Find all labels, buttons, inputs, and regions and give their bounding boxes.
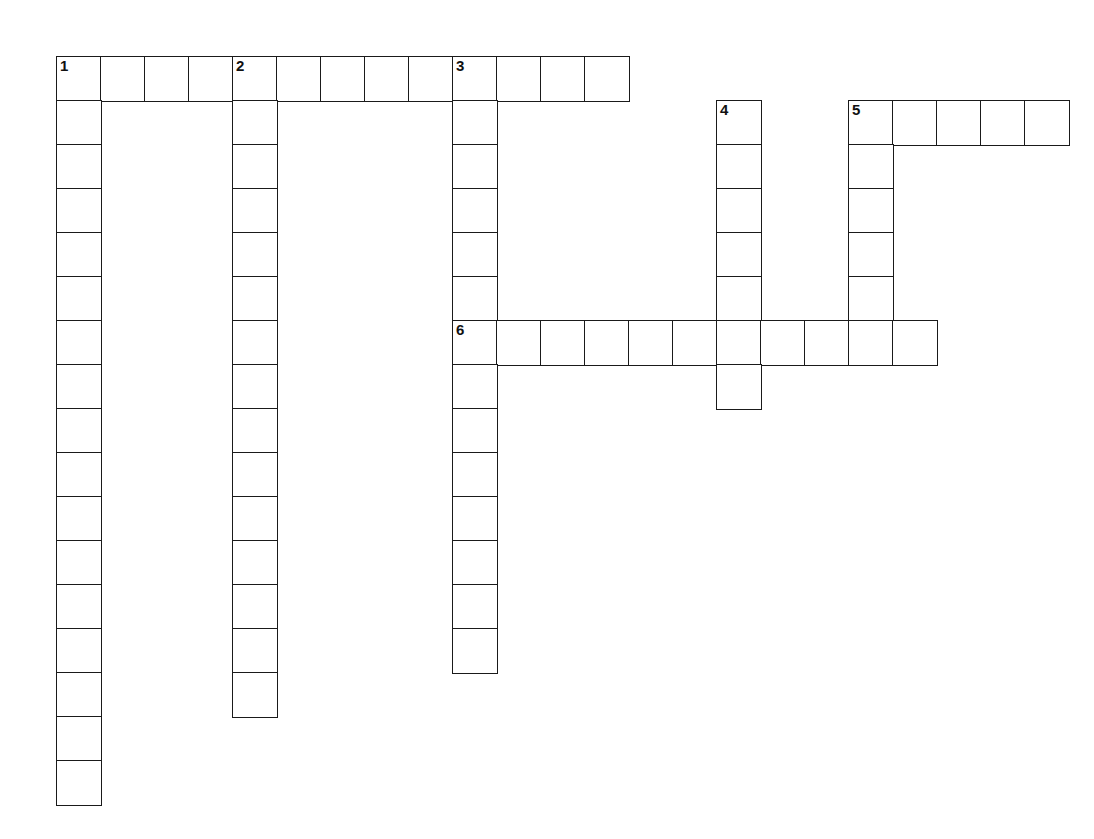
crossword-cell[interactable]: 6 xyxy=(452,320,498,366)
crossword-cell[interactable] xyxy=(56,408,102,454)
crossword-cell[interactable] xyxy=(452,496,498,542)
crossword-cell[interactable] xyxy=(584,56,630,102)
crossword-cell[interactable] xyxy=(56,188,102,234)
crossword-cell[interactable] xyxy=(540,56,586,102)
crossword-cell[interactable] xyxy=(232,276,278,322)
crossword-cell[interactable] xyxy=(188,56,234,102)
crossword-cell[interactable] xyxy=(56,716,102,762)
crossword-cell[interactable] xyxy=(364,56,410,102)
crossword-cell[interactable] xyxy=(452,188,498,234)
crossword-cell[interactable]: 3 xyxy=(452,56,498,102)
crossword-cell[interactable] xyxy=(716,276,762,322)
crossword-cell[interactable]: 4 xyxy=(716,100,762,146)
crossword-cell-number: 4 xyxy=(720,101,728,118)
crossword-cell[interactable] xyxy=(232,144,278,190)
crossword-cell[interactable] xyxy=(56,672,102,718)
crossword-cell[interactable] xyxy=(716,144,762,190)
crossword-cell[interactable] xyxy=(56,320,102,366)
crossword-cell[interactable] xyxy=(760,320,806,366)
crossword-cell[interactable] xyxy=(144,56,190,102)
crossword-cell[interactable] xyxy=(232,364,278,410)
crossword-cell[interactable] xyxy=(892,320,938,366)
crossword-cell[interactable] xyxy=(56,628,102,674)
crossword-cell[interactable] xyxy=(716,232,762,278)
crossword-cell[interactable] xyxy=(628,320,674,366)
crossword-cell[interactable] xyxy=(672,320,718,366)
crossword-cell[interactable] xyxy=(936,100,982,146)
crossword-cell[interactable] xyxy=(232,188,278,234)
crossword-cell[interactable] xyxy=(716,364,762,410)
crossword-cell[interactable] xyxy=(56,100,102,146)
crossword-cell[interactable] xyxy=(540,320,586,366)
crossword-cell[interactable] xyxy=(496,56,542,102)
crossword-cell[interactable] xyxy=(56,496,102,542)
crossword-cell[interactable] xyxy=(56,144,102,190)
crossword-cell[interactable] xyxy=(100,56,146,102)
crossword-cell[interactable] xyxy=(232,452,278,498)
crossword-cell[interactable] xyxy=(232,320,278,366)
crossword-cell[interactable] xyxy=(848,144,894,190)
crossword-cell[interactable] xyxy=(848,276,894,322)
crossword-cell[interactable] xyxy=(232,584,278,630)
crossword-cell[interactable] xyxy=(232,496,278,542)
crossword-cell[interactable] xyxy=(232,232,278,278)
crossword-cell-number: 1 xyxy=(60,57,68,74)
crossword-cell[interactable] xyxy=(452,232,498,278)
crossword-cell[interactable] xyxy=(232,672,278,718)
crossword-cell[interactable] xyxy=(848,320,894,366)
crossword-cell[interactable]: 1 xyxy=(56,56,102,102)
crossword-cell[interactable] xyxy=(320,56,366,102)
crossword-cell[interactable] xyxy=(232,100,278,146)
crossword-cell[interactable] xyxy=(892,100,938,146)
crossword-cell[interactable] xyxy=(408,56,454,102)
crossword-grid[interactable]: 123456 xyxy=(0,0,1094,839)
crossword-cell[interactable] xyxy=(716,188,762,234)
crossword-cell[interactable] xyxy=(276,56,322,102)
crossword-cell-number: 3 xyxy=(456,57,464,74)
crossword-cell[interactable] xyxy=(452,144,498,190)
crossword-cell[interactable] xyxy=(716,320,762,366)
crossword-cell[interactable] xyxy=(452,408,498,454)
crossword-cell[interactable] xyxy=(56,760,102,806)
crossword-cell[interactable] xyxy=(584,320,630,366)
crossword-cell[interactable] xyxy=(56,584,102,630)
crossword-cell[interactable] xyxy=(56,276,102,322)
crossword-cell[interactable] xyxy=(56,364,102,410)
crossword-cell[interactable] xyxy=(848,232,894,278)
crossword-cell[interactable] xyxy=(232,628,278,674)
crossword-cell[interactable] xyxy=(452,628,498,674)
crossword-cell[interactable] xyxy=(452,364,498,410)
crossword-page: 123456 xyxy=(0,0,1094,839)
crossword-cell[interactable] xyxy=(1024,100,1070,146)
crossword-cell[interactable] xyxy=(452,276,498,322)
crossword-cell-number: 5 xyxy=(852,101,860,118)
crossword-cell[interactable] xyxy=(452,540,498,586)
crossword-cell[interactable] xyxy=(496,320,542,366)
crossword-cell[interactable] xyxy=(56,540,102,586)
crossword-cell[interactable] xyxy=(232,408,278,454)
crossword-cell-number: 2 xyxy=(236,57,244,74)
crossword-cell[interactable] xyxy=(848,188,894,234)
crossword-cell[interactable] xyxy=(980,100,1026,146)
crossword-cell[interactable] xyxy=(56,452,102,498)
crossword-cell[interactable] xyxy=(452,584,498,630)
crossword-cell[interactable] xyxy=(804,320,850,366)
crossword-cell[interactable] xyxy=(56,232,102,278)
crossword-cell[interactable] xyxy=(232,540,278,586)
crossword-cell-number: 6 xyxy=(456,321,464,338)
crossword-cell[interactable] xyxy=(452,452,498,498)
crossword-cell[interactable]: 2 xyxy=(232,56,278,102)
crossword-cell[interactable]: 5 xyxy=(848,100,894,146)
crossword-cell[interactable] xyxy=(452,100,498,146)
